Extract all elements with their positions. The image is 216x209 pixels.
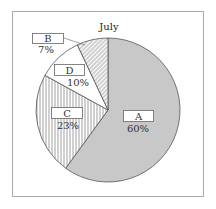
value-c: 23% (57, 120, 79, 131)
value-a: 60% (127, 123, 149, 134)
label-b: B (44, 33, 51, 44)
value-b: 7% (38, 44, 54, 55)
pie-chart: July B 7% D 10% C 23% A 60% (0, 0, 216, 209)
label-d: D (65, 65, 73, 76)
chart-title: July (98, 21, 119, 32)
label-a: A (134, 111, 143, 122)
label-c: C (63, 108, 71, 119)
value-d: 10% (67, 77, 89, 88)
